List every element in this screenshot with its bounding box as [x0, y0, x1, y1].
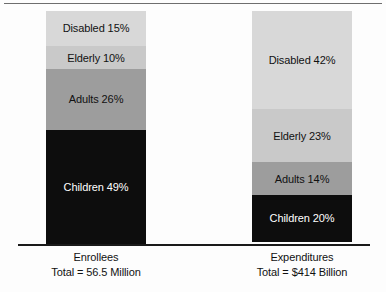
bar-segment-expenditures-children[interactable]: Children 20%: [252, 195, 352, 242]
bar-segment-enrollees-elderly[interactable]: Elderly 10%: [46, 46, 146, 69]
bar-segment-label-expenditures-adults: Adults 14%: [275, 173, 330, 185]
chart-figure: Disabled 15% Elderly 10% Adults 26% Chil…: [0, 0, 386, 292]
chart-baseline-axis: [18, 244, 370, 246]
bar-segment-label-enrollees-adults: Adults 26%: [69, 93, 124, 105]
bar-segment-expenditures-disabled[interactable]: Disabled 42%: [252, 11, 352, 109]
stacked-bar-expenditures: Disabled 42% Elderly 23% Adults 14% Chil…: [252, 11, 352, 244]
axis-category-name-expenditures: Expenditures: [202, 250, 386, 265]
bar-segment-expenditures-adults[interactable]: Adults 14%: [252, 162, 352, 195]
bar-segment-expenditures-elderly[interactable]: Elderly 23%: [252, 109, 352, 163]
top-divider-rule: [4, 3, 382, 4]
stacked-bar-enrollees: Disabled 15% Elderly 10% Adults 26% Chil…: [46, 11, 146, 244]
bar-segment-label-expenditures-disabled: Disabled 42%: [269, 54, 336, 66]
bar-group-expenditures: Disabled 42% Elderly 23% Adults 14% Chil…: [252, 11, 352, 244]
axis-category-total-expenditures: Total = $414 Billion: [202, 265, 386, 280]
axis-label-expenditures: Expenditures Total = $414 Billion: [202, 250, 386, 280]
bar-segment-label-enrollees-disabled: Disabled 15%: [63, 22, 130, 34]
bar-segment-label-expenditures-elderly: Elderly 23%: [273, 130, 331, 142]
bar-segment-enrollees-adults[interactable]: Adults 26%: [46, 69, 146, 130]
axis-category-name-enrollees: Enrollees: [0, 250, 196, 265]
axis-label-enrollees: Enrollees Total = 56.5 Million: [0, 250, 196, 280]
bar-segment-enrollees-disabled[interactable]: Disabled 15%: [46, 11, 146, 46]
bar-group-enrollees: Disabled 15% Elderly 10% Adults 26% Chil…: [46, 11, 146, 244]
axis-category-total-enrollees: Total = 56.5 Million: [0, 265, 196, 280]
bar-segment-label-enrollees-elderly: Elderly 10%: [67, 52, 125, 64]
bar-segment-label-expenditures-children: Children 20%: [270, 212, 335, 224]
bar-segment-enrollees-children[interactable]: Children 49%: [46, 130, 146, 244]
bar-segment-label-enrollees-children: Children 49%: [64, 181, 129, 193]
